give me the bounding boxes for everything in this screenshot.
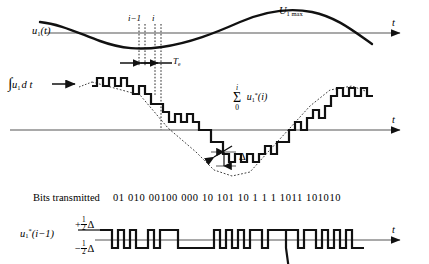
bits-transmitted-caption: Bits transmitted <box>33 193 100 204</box>
sample-index-current-label: i <box>152 14 155 23</box>
signal-time-axis-label: t <box>392 18 395 29</box>
delta-modulation-figure: u1(t) U1 max i−1 i Te t ∫u1 d t i Σ 0 u1… <box>0 0 429 264</box>
sample-index-prev-label: i−1 <box>128 14 141 23</box>
peak-voltage-label: U1 max <box>279 6 303 17</box>
integrator-input-label: ∫u1 d t <box>8 76 32 91</box>
sample-interval-markers <box>139 24 161 130</box>
output-pulse-train <box>100 230 364 264</box>
integrator-input-arrow <box>52 82 92 87</box>
signal-y-label: u1(t) <box>32 26 50 37</box>
bits-transmitted-value: 01 010 00100 000 10 101 10 1 1 1 1011 10… <box>113 193 341 204</box>
delta-step-label: Δ <box>239 152 246 163</box>
output-signal-label: u1*(i−1) <box>20 228 54 240</box>
signal-sine-curve <box>40 10 372 48</box>
integrator-time-axis-label: t <box>392 115 395 126</box>
figure-canvas <box>0 0 429 264</box>
output-level-low-label: −12 Δ <box>75 241 94 256</box>
delta-dimension-marker <box>211 152 236 166</box>
sampling-period-label: Te <box>173 57 181 67</box>
summation-annotation: i Σ 0 u1*(i) <box>233 84 267 112</box>
output-time-axis-label: t <box>392 225 395 236</box>
output-level-high-label: +12 Δ <box>75 217 94 232</box>
